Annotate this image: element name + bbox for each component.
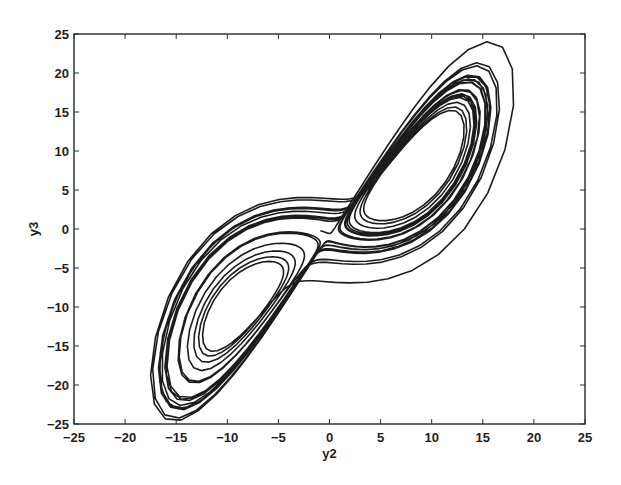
y-tick-label: 20 — [55, 66, 69, 81]
y-tick-label: −25 — [47, 417, 69, 432]
y-tick-label: 5 — [62, 183, 69, 198]
y-tick-label: −15 — [47, 339, 69, 354]
x-tick-label: −10 — [216, 430, 238, 445]
y-tick-label: −10 — [47, 300, 69, 315]
y-tick-label: 15 — [55, 105, 69, 120]
attractor-trajectory — [151, 42, 514, 420]
y-tick-label: 0 — [62, 222, 69, 237]
x-tick-label: 5 — [377, 430, 384, 445]
y-axis-label: y3 — [26, 222, 41, 236]
x-tick-label: −5 — [271, 430, 286, 445]
y-tick-label: −5 — [54, 261, 69, 276]
y-tick-label: 25 — [55, 27, 69, 42]
x-tick-label: 0 — [326, 430, 333, 445]
x-tick-label: −15 — [165, 430, 187, 445]
x-tick-label: 25 — [578, 430, 592, 445]
plot-area — [151, 42, 514, 420]
x-tick-label: 20 — [527, 430, 541, 445]
x-tick-label: 10 — [424, 430, 438, 445]
y-tick-label: 10 — [55, 144, 69, 159]
axes-frame — [74, 34, 585, 424]
x-tick-label: −20 — [114, 430, 136, 445]
y-axis-ticks: −25−20−15−10−50510152025 — [47, 27, 585, 432]
x-tick-label: 15 — [476, 430, 490, 445]
x-axis-label: y2 — [322, 446, 336, 461]
y-tick-label: −20 — [47, 378, 69, 393]
x-tick-label: −25 — [63, 430, 85, 445]
phase-portrait-figure: −25−20−15−10−50510152025 −25−20−15−10−50… — [0, 0, 621, 485]
